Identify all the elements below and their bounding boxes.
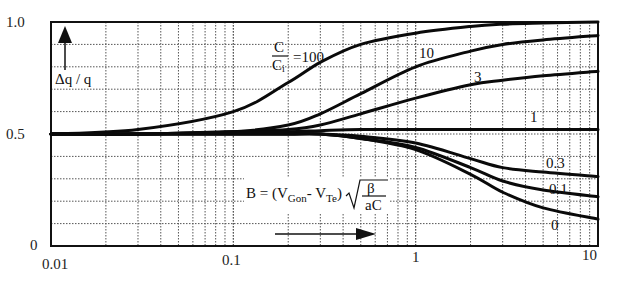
curve-c-ci-3 xyxy=(51,71,598,134)
y-axis-label: Δq / q xyxy=(55,71,92,87)
y-tick-1: 1.0 xyxy=(6,14,25,30)
up-arrow-icon xyxy=(58,26,72,70)
series-label-10: 10 xyxy=(419,45,434,61)
y-tick-05: 0.5 xyxy=(6,126,25,142)
y-tick-0: 0 xyxy=(30,237,38,253)
curve-c-ci-03 xyxy=(51,134,598,177)
formula-B: B = (VGon- VTe) β aC xyxy=(244,178,390,214)
curve-c-ci-10 xyxy=(51,35,598,134)
series-label-3: 3 xyxy=(474,69,482,85)
series-label-01: 0.1 xyxy=(549,181,568,197)
formula-ac: aC xyxy=(365,197,382,213)
right-arrow-icon xyxy=(275,228,376,240)
x-tick-001: 0.01 xyxy=(42,256,68,272)
x-tick-01: 0.1 xyxy=(222,252,241,268)
series-label-1: 1 xyxy=(530,109,538,125)
fraction-value: =100 xyxy=(293,49,324,65)
fraction-denominator: Ci xyxy=(272,57,285,74)
fraction-numerator: C xyxy=(274,39,284,55)
formula-beta: β xyxy=(367,180,375,196)
series-label-03: 0.3 xyxy=(546,155,565,171)
x-tick-1: 1 xyxy=(412,249,420,265)
x-tick-10: 10 xyxy=(582,247,597,263)
chart: 1.0 0.5 0 0.01 0.1 1 10 Δq / q C Ci =100… xyxy=(0,0,623,281)
series-label-0: 0 xyxy=(551,217,559,233)
